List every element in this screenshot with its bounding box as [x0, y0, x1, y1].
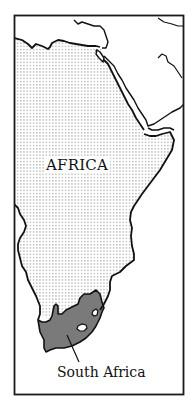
- map-figure: AFRICA South Africa: [0, 0, 194, 409]
- horn-gulf-aden: [148, 128, 174, 130]
- country-label: South Africa: [57, 364, 146, 380]
- persian-gulf-coast: [158, 54, 182, 78]
- africa-landmass: [14, 38, 174, 322]
- africa-map: [0, 0, 194, 409]
- continent-label: AFRICA: [44, 157, 110, 173]
- east-coast-top: [158, 18, 184, 26]
